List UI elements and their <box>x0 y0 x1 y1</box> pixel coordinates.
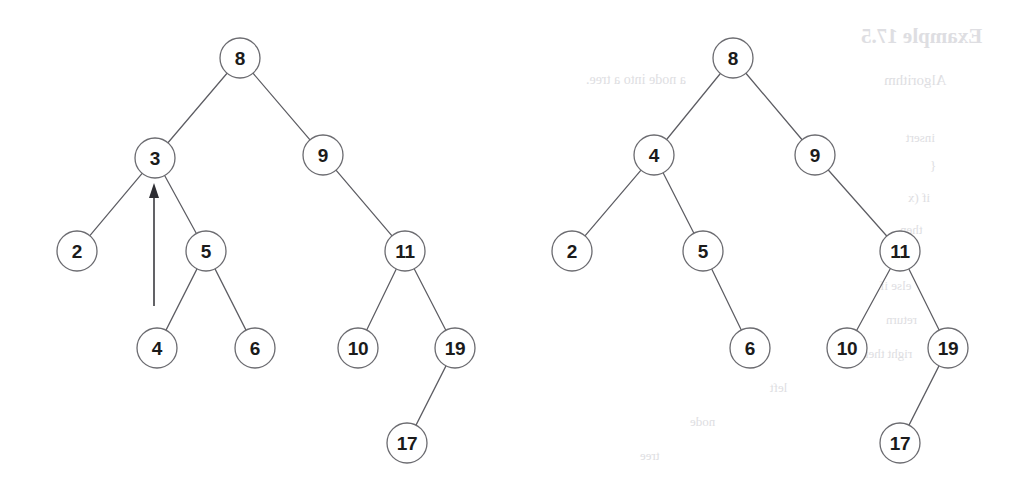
tree-node[interactable]: 5 <box>683 231 723 271</box>
tree-node[interactable]: 9 <box>795 135 835 175</box>
tree-node[interactable]: 17 <box>387 423 427 463</box>
tree-node-label: 5 <box>201 241 212 262</box>
tree-node-label: 4 <box>649 145 660 166</box>
tree-edge <box>90 173 142 235</box>
tree-node-label: 5 <box>698 241 709 262</box>
tree-node[interactable]: 8 <box>713 38 753 78</box>
tree-node[interactable]: 4 <box>137 328 177 368</box>
tree-node-label: 10 <box>837 338 858 359</box>
tree-edge <box>857 269 891 331</box>
tree-node-label: 8 <box>235 48 245 69</box>
tree-edge <box>336 170 392 236</box>
tree-node[interactable]: 6 <box>730 328 770 368</box>
insertion-arrow-head <box>149 183 159 198</box>
tree-edge <box>667 74 721 140</box>
tree-node[interactable]: 3 <box>135 138 175 178</box>
tree-node[interactable]: 17 <box>880 423 920 463</box>
tree-node-label: 10 <box>348 338 369 359</box>
tree-edge <box>165 176 197 234</box>
tree-node-label: 6 <box>250 338 260 359</box>
tree-edge <box>909 366 939 425</box>
tree-node-label: 8 <box>728 48 738 69</box>
tree-node-label: 9 <box>810 145 820 166</box>
tree-edge <box>253 73 310 140</box>
tree-edge <box>712 269 742 330</box>
tree-node[interactable]: 19 <box>928 328 968 368</box>
tree-node[interactable]: 4 <box>634 135 674 175</box>
tree-node-label: 2 <box>72 241 82 262</box>
tree-edge <box>746 73 802 139</box>
tree-node[interactable]: 11 <box>385 231 425 271</box>
tree-node-label: 3 <box>150 148 160 169</box>
tree-edge <box>663 173 694 233</box>
tree-edge <box>416 366 446 425</box>
tree-node[interactable]: 11 <box>880 231 920 271</box>
tree-edge <box>828 170 886 236</box>
tree-node-label: 4 <box>152 338 163 359</box>
tree-node-label: 9 <box>318 145 328 166</box>
insertion-arrow <box>149 183 159 306</box>
tree-node[interactable]: 9 <box>303 135 343 175</box>
tree-node-label: 11 <box>395 241 415 262</box>
tree-node[interactable]: 8 <box>220 38 260 78</box>
tree-edge <box>585 170 641 236</box>
tree-node[interactable]: 6 <box>235 328 275 368</box>
tree-node[interactable]: 10 <box>338 328 378 368</box>
tree-node-label: 2 <box>567 241 577 262</box>
tree-node-label: 6 <box>745 338 755 359</box>
tree-node-label: 17 <box>890 433 911 454</box>
tree-node[interactable]: 2 <box>552 231 592 271</box>
tree-node[interactable]: 5 <box>186 231 226 271</box>
tree-node[interactable]: 10 <box>827 328 867 368</box>
tree-edge <box>414 269 446 330</box>
tree-node[interactable]: 19 <box>435 328 475 368</box>
tree-node-label: 11 <box>890 241 910 262</box>
left-tree: 839251146101917 <box>57 38 475 463</box>
tree-edge <box>168 73 227 143</box>
tree-node[interactable]: 2 <box>57 231 97 271</box>
tree-edge <box>909 269 939 330</box>
tree-node-label: 19 <box>938 338 959 359</box>
tree-node-label: 17 <box>397 433 418 454</box>
tree-node-label: 19 <box>445 338 466 359</box>
bst-insertion-figure: Example 17.5Algorithma node into a tree.… <box>0 0 1034 495</box>
right-tree: 84925116101917 <box>552 38 968 463</box>
tree-edge <box>367 269 397 330</box>
tree-edge <box>215 269 246 330</box>
tree-diagram-canvas: 839251146101917 84925116101917 <box>0 0 1034 495</box>
tree-edge <box>166 269 197 330</box>
